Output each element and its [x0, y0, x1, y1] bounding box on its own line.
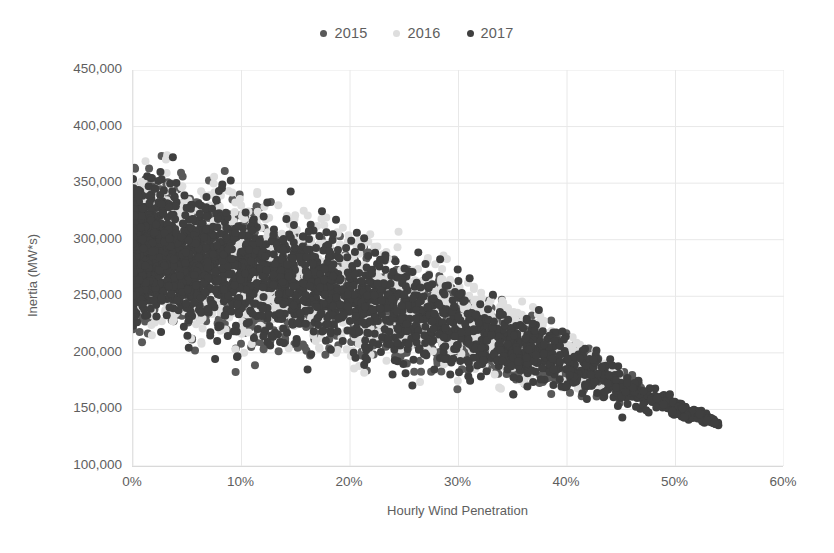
x-axis-tick-label: 40%	[531, 474, 601, 489]
x-axis-tick-label: 20%	[314, 474, 384, 489]
y-axis-tick-label: 100,000	[32, 457, 122, 472]
y-axis-tick-label: 250,000	[32, 287, 122, 302]
x-axis-tick-label: 10%	[206, 474, 276, 489]
circle-marker-icon	[467, 30, 474, 37]
y-axis-tick-label: 150,000	[32, 400, 122, 415]
legend-item-2016[interactable]: 2016	[393, 25, 440, 41]
x-axis-line	[132, 466, 783, 467]
legend-item-2017[interactable]: 2017	[467, 25, 514, 41]
x-axis-tick-label: 50%	[640, 474, 710, 489]
y-axis-tick-label: 400,000	[32, 118, 122, 133]
chart-legend: 2015 2016 2017	[0, 20, 834, 46]
x-axis-title: Hourly Wind Penetration	[132, 503, 783, 518]
circle-marker-icon	[320, 30, 327, 37]
y-axis-tick-label: 450,000	[32, 61, 122, 76]
x-axis-tick-label: 0%	[97, 474, 167, 489]
y-axis-tick-label: 350,000	[32, 174, 122, 189]
x-axis-tick-label: 30%	[423, 474, 493, 489]
legend-label: 2017	[481, 25, 514, 41]
legend-label: 2016	[407, 25, 440, 41]
scatter-points	[133, 70, 784, 466]
scatter-chart: 2015 2016 2017 Inertia (MW*s) 100,000150…	[0, 0, 834, 553]
plot-area	[132, 70, 783, 466]
x-axis-tick-label: 60%	[748, 474, 818, 489]
legend-item-2015[interactable]: 2015	[320, 25, 367, 41]
y-axis-tick-label: 200,000	[32, 344, 122, 359]
y-axis-title: Inertia (MW*s)	[25, 186, 40, 366]
circle-marker-icon	[393, 30, 400, 37]
legend-label: 2015	[334, 25, 367, 41]
y-axis-tick-label: 300,000	[32, 231, 122, 246]
